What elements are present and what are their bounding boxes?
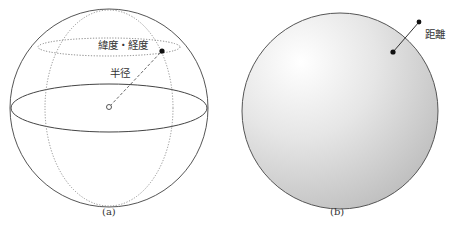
center-point bbox=[107, 105, 112, 110]
shaded-sphere bbox=[242, 13, 438, 209]
panel-a: 緯度・経度 半径 (a) bbox=[10, 9, 208, 217]
radius-label: 半径 bbox=[110, 67, 131, 79]
surface-point bbox=[159, 48, 164, 53]
outer-point bbox=[417, 20, 422, 25]
caption-b: (b) bbox=[330, 206, 344, 217]
panel-b: 距離 (b) bbox=[242, 13, 446, 217]
distance-label: 距離 bbox=[425, 28, 446, 40]
surface-point-b bbox=[390, 49, 395, 54]
lat-long-label: 緯度・経度 bbox=[98, 39, 149, 51]
figure: 緯度・経度 半径 (a) 距離 (b) bbox=[0, 0, 455, 225]
caption-a: (a) bbox=[102, 206, 116, 217]
